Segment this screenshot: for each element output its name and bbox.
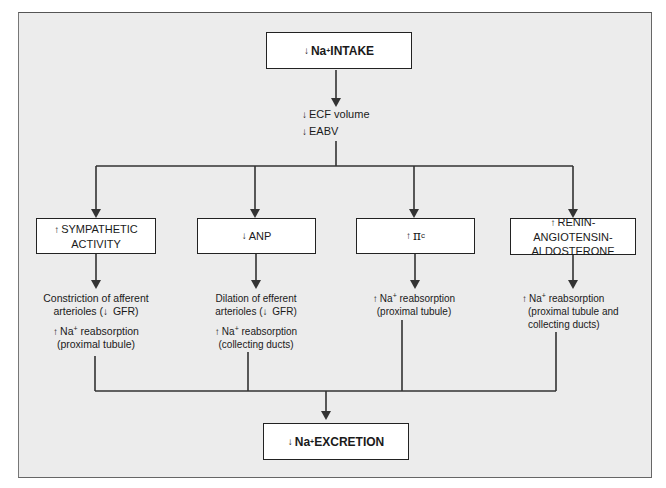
arrow-down-icon: ↓ [103,306,108,317]
sympathetic-activity-box: ↑SYMPATHETIC ACTIVITY [36,218,156,254]
renin-angiotensin-aldosterone-box: ↑RENIN-ANGIOTENSIN- ALDOSTERONE [510,218,636,255]
arrow-down-icon: ↓ [304,44,309,58]
arrow-up-icon: ↑ [373,293,378,304]
pi-c-box: ↑πc [356,218,475,254]
arrow-down-icon: ↓ [242,229,247,243]
pi-c-effects: ↑Na+ reabsorption (proximal tubule) [354,292,474,318]
arrow-up-icon: ↑ [215,326,220,337]
arrow-down-icon: ↓ [288,435,293,449]
anp-box: ↓ANP [197,218,316,254]
arrow-up-icon: ↑ [53,326,58,337]
arrow-down-icon: ↓ [263,306,268,317]
sympathetic-effects: Constriction of afferent arterioles (↓ G… [30,292,162,351]
arrow-up-icon: ↑ [54,224,59,235]
na-excretion-box: ↓ Na+ EXCRETION [263,423,409,460]
arrow-up-icon: ↑ [406,229,411,243]
raas-effects: ↑Na+ reabsorption (proximal tubule and c… [522,292,642,331]
arrow-up-icon: ↑ [522,293,527,304]
eabv-label: ↓EABV [302,125,338,138]
ecf-volume-label: ↓ECF volume [302,108,370,121]
arrow-down-icon: ↓ [302,109,307,120]
na-intake-box: ↓ Na+ INTAKE [266,32,412,69]
arrow-up-icon: ↑ [551,217,556,228]
anp-effects: Dilation of efferent arterioles (↓ GFR) … [196,292,316,351]
arrow-down-icon: ↓ [302,126,307,137]
